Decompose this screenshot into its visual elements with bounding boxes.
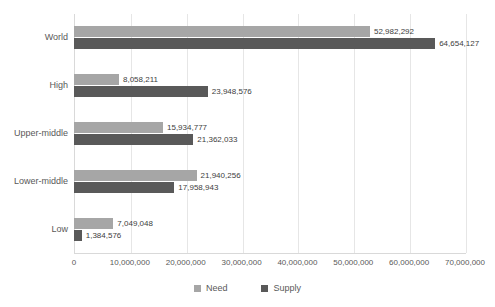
- x-axis-tick-label: 30,000,000: [222, 258, 262, 267]
- gridline: [354, 14, 355, 253]
- legend-item-need[interactable]: Need: [194, 283, 228, 293]
- bar-need-world: [74, 26, 370, 37]
- bar-supply-lower-middle: [74, 182, 174, 193]
- bar-supply-high: [74, 86, 208, 97]
- category-label-low: Low: [0, 224, 68, 234]
- gridline: [466, 14, 467, 253]
- chart-legend: NeedSupply: [0, 283, 495, 293]
- bar-supply-upper-middle: [74, 134, 193, 145]
- x-axis-tick-label: 60,000,000: [389, 258, 429, 267]
- x-axis-tick-label: 10,000,000: [110, 258, 150, 267]
- bar-need-lower-middle: [74, 170, 197, 181]
- legend-label: Supply: [273, 283, 301, 293]
- bar-value-label-supply-low: 1,384,576: [86, 230, 122, 241]
- x-axis-tick-label: 70,000,000: [445, 258, 485, 267]
- gridline: [298, 14, 299, 253]
- category-label-upper-middle: Upper-middle: [0, 128, 68, 138]
- bar-value-label-need-high: 8,058,211: [123, 74, 158, 85]
- bar-supply-world: [74, 38, 435, 49]
- category-label-high: High: [0, 80, 68, 90]
- bar-value-label-supply-upper-middle: 21,362,033: [197, 134, 237, 145]
- bar-need-high: [74, 74, 119, 85]
- bar-value-label-supply-lower-middle: 17,958,943: [178, 182, 218, 193]
- gridline: [243, 14, 244, 253]
- category-label-lower-middle: Lower-middle: [0, 176, 68, 186]
- bar-value-label-supply-world: 64,654,127: [439, 38, 479, 49]
- bar-value-label-need-low: 7,049,048: [117, 218, 153, 229]
- gridline: [410, 14, 411, 253]
- x-axis-tick-label: 40,000,000: [277, 258, 317, 267]
- legend-item-supply[interactable]: Supply: [261, 283, 301, 293]
- bar-value-label-need-lower-middle: 21,940,256: [201, 170, 241, 181]
- x-axis-tick-label: 20,000,000: [166, 258, 206, 267]
- legend-label: Need: [206, 283, 228, 293]
- bar-value-label-need-upper-middle: 15,934,777: [167, 122, 207, 133]
- bar-chart: WorldHighUpper-middleLower-middleLow 52,…: [0, 0, 495, 307]
- bar-supply-low: [74, 230, 82, 241]
- category-label-world: World: [0, 32, 68, 42]
- legend-swatch-icon: [261, 285, 268, 292]
- legend-swatch-icon: [194, 285, 201, 292]
- bar-need-low: [74, 218, 113, 229]
- x-axis-tick-label: 50,000,000: [333, 258, 373, 267]
- bar-need-upper-middle: [74, 122, 163, 133]
- bar-value-label-need-world: 52,982,292: [374, 26, 414, 37]
- bar-value-label-supply-high: 23,948,576: [212, 86, 252, 97]
- x-axis-tick-label: 0: [72, 258, 76, 267]
